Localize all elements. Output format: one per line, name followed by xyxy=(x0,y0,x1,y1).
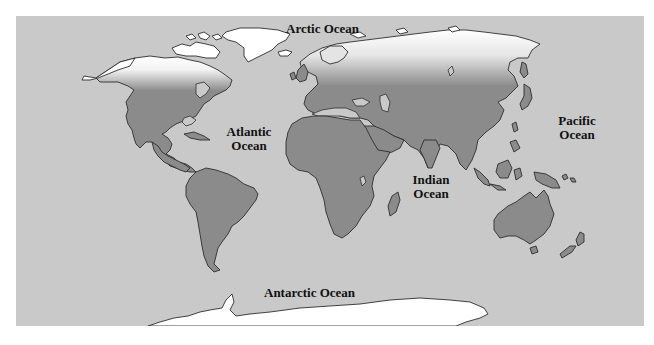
australia xyxy=(494,190,554,244)
atlantic-ocean-label: Atlantic Ocean xyxy=(222,125,276,153)
sumatra xyxy=(474,168,490,186)
ireland xyxy=(290,72,296,80)
indian-ocean-label-line1: Indian xyxy=(406,173,456,187)
madagascar xyxy=(388,192,400,216)
atlantic-ocean-label-line1: Atlantic xyxy=(222,125,276,139)
arctic-island xyxy=(212,34,222,40)
java xyxy=(490,184,506,190)
philippines xyxy=(510,140,520,152)
pacific-ocean-label: Pacific Ocean xyxy=(552,114,602,142)
new-guinea xyxy=(534,172,560,188)
greenland xyxy=(222,28,290,62)
japan xyxy=(520,84,532,110)
sakhalin xyxy=(520,62,528,78)
arctic-ocean-label: Arctic Ocean xyxy=(286,22,359,36)
new-zealand-south xyxy=(560,246,576,258)
arctic-island xyxy=(186,34,196,40)
world-map: Arctic Ocean Atlantic Ocean Pacific Ocea… xyxy=(16,16,644,326)
taiwan xyxy=(512,122,518,132)
indian-ocean-label-line2: Ocean xyxy=(406,187,456,201)
cuba xyxy=(184,132,210,140)
island xyxy=(562,174,568,180)
south-america xyxy=(186,168,258,272)
indian-ocean-label: Indian Ocean xyxy=(406,173,456,201)
pacific-ocean-label-line1: Pacific xyxy=(552,114,602,128)
iceland xyxy=(278,50,292,56)
antarctic-ocean-label: Antarctic Ocean xyxy=(264,286,355,300)
arctic-islands xyxy=(172,42,220,58)
arctic-island xyxy=(396,28,408,34)
map-graphic xyxy=(16,16,644,326)
india xyxy=(420,140,440,168)
tasmania xyxy=(530,246,538,254)
borneo xyxy=(496,160,512,178)
arctic-island xyxy=(198,32,210,40)
sulawesi xyxy=(514,168,522,180)
island xyxy=(570,178,576,182)
new-zealand-north xyxy=(576,232,584,246)
atlantic-ocean-label-line2: Ocean xyxy=(222,139,276,153)
pacific-ocean-label-line2: Ocean xyxy=(552,128,602,142)
